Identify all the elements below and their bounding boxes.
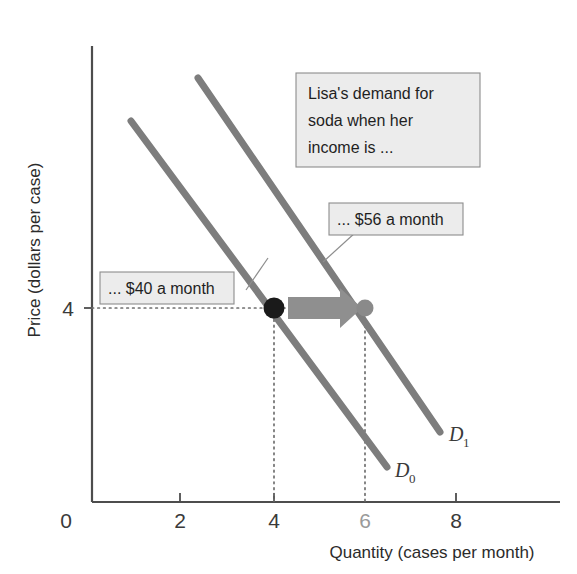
callout-income-low-label: ... $40 a month [108, 280, 215, 297]
callout-income-low: ... $40 a month [100, 272, 234, 304]
callout-main-line-1: Lisa's demand for [308, 85, 434, 102]
curve-label-d0-subscript: 0 [409, 471, 416, 486]
curve-label-d1-subscript: 1 [463, 435, 470, 450]
x-axis-title: Quantity (cases per month) [329, 543, 534, 562]
y-axis-title: Price (dollars per case) [25, 163, 44, 338]
chart-svg: 4 Price (dollars per case) 0 2 4 6 8 Qua… [0, 0, 577, 574]
point-on-d0 [264, 298, 285, 319]
callout-main: Lisa's demand for soda when her income i… [296, 73, 480, 167]
curve-label-d0: D 0 [394, 459, 416, 486]
curve-label-d0-letter: D [394, 459, 410, 481]
shift-arrow-icon [288, 288, 362, 328]
demand-shift-figure: 4 Price (dollars per case) 0 2 4 6 8 Qua… [0, 0, 577, 574]
y-tick-label-4: 4 [62, 297, 74, 320]
x-tick-label-2: 2 [174, 509, 186, 532]
x-axis-ticks: 0 2 4 6 8 [60, 493, 462, 532]
curve-label-d1: D 1 [448, 423, 470, 450]
leader-line-income-high [323, 232, 356, 262]
curve-label-d1-letter: D [448, 423, 464, 445]
x-tick-label-0: 0 [60, 509, 72, 532]
guide-lines-group [92, 308, 365, 502]
callout-main-line-2: soda when her [308, 112, 414, 129]
callout-main-line-3: income is ... [308, 139, 393, 156]
x-tick-label-4: 4 [268, 509, 280, 532]
y-axis-ticks: 4 [62, 297, 92, 320]
point-on-d1 [357, 300, 374, 317]
x-tick-label-6: 6 [359, 509, 371, 532]
x-tick-label-8: 8 [450, 509, 462, 532]
leader-line-income-low [246, 258, 268, 290]
callout-income-high-label: ... $56 a month [337, 211, 444, 228]
callout-income-high: ... $56 a month [329, 203, 463, 235]
